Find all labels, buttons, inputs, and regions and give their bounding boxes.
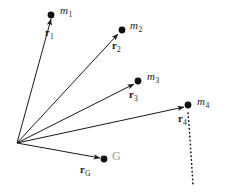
- point-dot-G: [101, 156, 108, 163]
- label-vector-r2: r2: [112, 41, 120, 52]
- point-dot-m1: [48, 12, 55, 19]
- label-m4: m4: [197, 96, 209, 107]
- label-vector-r3: r3: [129, 90, 137, 101]
- label-vector-r1: r1: [45, 28, 53, 39]
- point-dot-m3: [135, 78, 142, 85]
- label-m3: m3: [147, 71, 159, 82]
- label-m2: m2: [130, 20, 142, 31]
- vector-diagram-figure: m1 m2 m3 m4 G r1 r2 r3 r4 rG: [0, 0, 225, 192]
- label-vector-r4: r4: [178, 114, 186, 125]
- diagram-canvas: [0, 0, 225, 192]
- label-vector-rG: rG: [80, 165, 90, 176]
- body-outline-dotted-arc: [188, 113, 193, 186]
- point-dot-m2: [119, 27, 126, 34]
- vector-arrow-r4: [17, 107, 184, 143]
- point-dot-m4: [185, 102, 192, 109]
- vector-arrow-rG: [17, 143, 100, 158]
- vector-arrow-group: [17, 19, 184, 158]
- label-m1: m1: [60, 5, 72, 16]
- vector-arrow-r3: [17, 84, 134, 143]
- label-G: G: [112, 150, 121, 162]
